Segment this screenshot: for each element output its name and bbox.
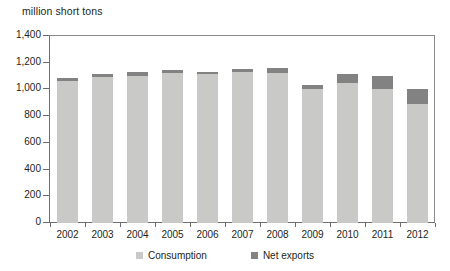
legend-label: Consumption [148, 250, 207, 261]
chart-legend: ConsumptionNet exports [0, 250, 450, 261]
x-axis-tick-mark [330, 223, 331, 227]
bar-segment-consumption[interactable] [372, 89, 393, 223]
x-axis-tick-mark [225, 223, 226, 227]
bar-segment-net-exports[interactable] [57, 78, 78, 81]
bar-group[interactable] [407, 36, 428, 223]
bars-layer [50, 36, 435, 223]
bar-segment-consumption[interactable] [232, 72, 253, 223]
x-axis-tick-mark [120, 223, 121, 227]
bar-group[interactable] [197, 36, 218, 223]
x-axis-labels: 2002200320042005200620072008200920102011… [50, 229, 435, 243]
bar-group[interactable] [127, 36, 148, 223]
x-axis-tick-label: 2010 [330, 229, 365, 241]
y-axis-tick-label: 200 [0, 190, 41, 200]
bar-segment-net-exports[interactable] [267, 68, 288, 73]
y-axis-tick-label: 1,000 [0, 83, 41, 93]
x-axis-tick-mark [85, 223, 86, 227]
x-axis-tick-mark [400, 223, 401, 227]
x-axis-tick-label: 2012 [400, 229, 435, 241]
bar-group[interactable] [162, 36, 183, 223]
y-axis-tick-label: 800 [0, 110, 41, 120]
bar-segment-net-exports[interactable] [92, 74, 113, 77]
x-axis-tick-label: 2008 [260, 229, 295, 241]
legend-label: Net exports [263, 250, 314, 261]
bar-segment-consumption[interactable] [407, 104, 428, 223]
bar-segment-net-exports[interactable] [197, 72, 218, 74]
x-axis-tick-label: 2003 [85, 229, 120, 241]
x-axis-tick-label: 2007 [225, 229, 260, 241]
x-axis-tick-label: 2002 [50, 229, 85, 241]
legend-swatch-consumption [136, 252, 143, 259]
x-axis-tick-label: 2004 [120, 229, 155, 241]
bar-group[interactable] [267, 36, 288, 223]
x-axis-ticks [50, 223, 435, 228]
bar-group[interactable] [372, 36, 393, 223]
chart-container: million short tons 02004006008001,0001,2… [0, 0, 450, 271]
bar-segment-net-exports[interactable] [127, 72, 148, 76]
x-axis-tick-mark [190, 223, 191, 227]
bar-group[interactable] [92, 36, 113, 223]
y-axis-tick-label: 600 [0, 137, 41, 147]
bar-segment-net-exports[interactable] [372, 76, 393, 89]
legend-item[interactable]: Net exports [251, 250, 314, 261]
bar-segment-net-exports[interactable] [232, 69, 253, 72]
y-axis-tick-label: 1,400 [0, 30, 41, 40]
legend-item[interactable]: Consumption [136, 250, 207, 261]
legend-swatch-net-exports [251, 252, 258, 259]
y-axis-tick-label: 0 [0, 217, 41, 227]
bar-segment-net-exports[interactable] [302, 85, 323, 89]
bar-segment-net-exports[interactable] [407, 89, 428, 104]
y-axis-tick-label: 1,200 [0, 57, 41, 67]
x-axis-tick-mark [155, 223, 156, 227]
y-axis-tick-label: 400 [0, 164, 41, 174]
bar-segment-consumption[interactable] [337, 83, 358, 223]
x-axis-tick-label: 2006 [190, 229, 225, 241]
bar-segment-consumption[interactable] [197, 74, 218, 223]
bar-segment-consumption[interactable] [302, 89, 323, 223]
bar-group[interactable] [232, 36, 253, 223]
x-axis-tick-mark [260, 223, 261, 227]
x-axis-tick-label: 2005 [155, 229, 190, 241]
bar-segment-consumption[interactable] [92, 77, 113, 223]
bar-segment-consumption[interactable] [162, 73, 183, 223]
x-axis-tick-mark [295, 223, 296, 227]
x-axis-tick-mark [50, 223, 51, 227]
bar-segment-consumption[interactable] [127, 76, 148, 223]
x-axis-tick-mark [435, 223, 436, 227]
bar-segment-net-exports[interactable] [337, 74, 358, 83]
bar-segment-consumption[interactable] [57, 81, 78, 223]
x-axis-tick-label: 2011 [365, 229, 400, 241]
bar-segment-consumption[interactable] [267, 73, 288, 223]
y-axis-title: million short tons [22, 5, 103, 17]
y-axis-labels: 02004006008001,0001,2001,400 [0, 35, 41, 223]
x-axis-tick-mark [365, 223, 366, 227]
x-axis-tick-label: 2009 [295, 229, 330, 241]
bar-group[interactable] [57, 36, 78, 223]
bar-group[interactable] [302, 36, 323, 223]
bar-segment-net-exports[interactable] [162, 70, 183, 72]
bar-group[interactable] [337, 36, 358, 223]
